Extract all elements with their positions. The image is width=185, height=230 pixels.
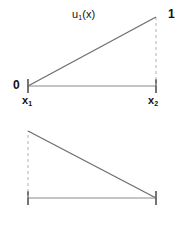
plot-svg-u2 [0,115,185,230]
figure-root: u1(x) 0 1 x1 x2 u2(x) 1 0 x1 x2 [0,0,185,230]
x-axis-label-x2-u1-subscript: 2 [154,100,158,107]
plot-panel-u2: u2(x) 1 0 x1 x2 [0,115,185,230]
value-label-left-u1: 0 [13,79,20,91]
x-axis-label-x2-u1: x2 [148,95,158,107]
function-curve-u2 [28,131,156,198]
function-curve-u1 [28,17,156,86]
plot-panel-u1: u1(x) 0 1 x1 x2 [0,0,185,115]
value-label-right-u1: 1 [168,8,175,20]
function-label-u1-suffix: (x) [82,8,95,20]
x-axis-label-x1-u1-subscript: 1 [28,100,32,107]
function-label-u1: u1(x) [72,9,95,21]
x-axis-label-x1-u1: x1 [22,95,32,107]
